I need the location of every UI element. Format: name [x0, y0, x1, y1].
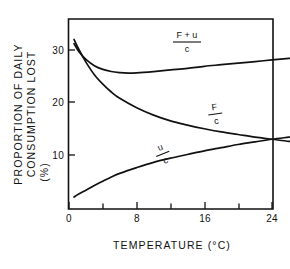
y-tick-label-20: 20	[52, 97, 64, 108]
curve-label-numerator: F + u	[177, 30, 198, 40]
x-tick-label-16: 16	[199, 213, 211, 224]
x-axis-ticks-minor	[103, 204, 239, 210]
y-axis-title-units: (%)	[38, 162, 50, 182]
y-axis-ticks	[69, 50, 76, 155]
curve-label-denominator: c	[161, 155, 169, 166]
y-axis-title-line1: PROPORTION OF DAILY	[12, 43, 24, 184]
curve-label-f-plus-u-over-c: F + u c	[173, 30, 201, 54]
chart-figure: 10 20 30 0 8 16 24 F + u	[0, 0, 290, 269]
curve-label-denominator: c	[185, 44, 190, 54]
x-axis-title: TEMPERATURE (°C)	[113, 239, 231, 251]
x-tick-label-24: 24	[266, 213, 278, 224]
y-tick-label-10: 10	[52, 150, 64, 161]
y-tick-label-30: 30	[52, 45, 64, 56]
x-tick-label-0: 0	[66, 213, 72, 224]
curve-label-u-over-c: u c	[152, 140, 174, 167]
curve-u-over-c	[74, 136, 290, 197]
proportion-vs-temperature-chart: 10 20 30 0 8 16 24 F + u	[0, 0, 290, 269]
curve-label-denominator: c	[213, 116, 219, 127]
curve-label-numerator: u	[156, 142, 164, 153]
y-axis-title-line2: CONSUMPTION LOST	[25, 51, 37, 178]
y-axis-title: PROPORTION OF DAILY CONSUMPTION LOST (%)	[12, 43, 50, 184]
curve-label-f-over-c: F c	[207, 101, 224, 127]
plot-frame	[69, 19, 274, 209]
curves-group	[74, 40, 290, 198]
x-tick-label-8: 8	[134, 213, 140, 224]
curve-f-plus-u-over-c	[74, 44, 290, 73]
curve-label-numerator: F	[211, 102, 218, 113]
curve-f-over-c	[74, 40, 290, 143]
